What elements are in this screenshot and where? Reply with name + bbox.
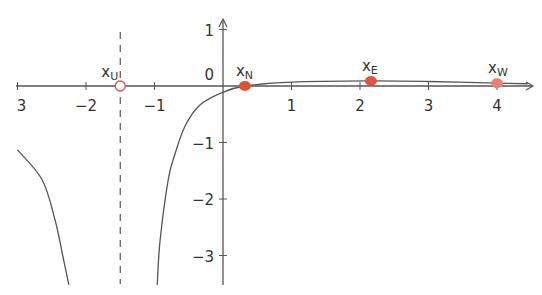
point-label-subscript: U (110, 70, 118, 83)
point-xW-label: xW (488, 59, 508, 79)
point-label-main: x (236, 62, 245, 80)
function-graph: 3−2−112341−1−2−30 xUxNxExW (0, 0, 542, 295)
point-label-subscript: N (245, 69, 253, 82)
x-tick-label: −1 (143, 97, 165, 115)
point-xE-marker (365, 76, 377, 86)
point-xE-label: xE (362, 57, 378, 77)
axes: 3−2−112341−1−2−30 (16, 19, 533, 285)
point-label-main: x (488, 59, 497, 77)
point-xU-label: xU (101, 63, 118, 83)
y-tick-label: −3 (192, 248, 214, 266)
point-label-main: x (101, 63, 110, 81)
point-xN-marker (239, 81, 251, 91)
point-xW-marker (491, 78, 503, 88)
x-tick-label: 3 (424, 97, 434, 115)
point-xN-label: xN (236, 62, 253, 82)
y-tick-label: −2 (192, 191, 214, 209)
origin-label: 0 (204, 66, 214, 84)
point-label-subscript: W (497, 66, 508, 79)
point-label-subscript: E (371, 64, 378, 77)
x-tick-label: 4 (492, 97, 502, 115)
left-branch (18, 150, 69, 285)
x-tick-label: 1 (287, 97, 297, 115)
x-tick-label: 3 (17, 97, 27, 115)
x-tick-label: 2 (355, 97, 365, 115)
x-tick-label: −2 (75, 97, 97, 115)
point-label-main: x (362, 57, 371, 75)
y-tick-label: −1 (192, 135, 214, 153)
y-tick-label: 1 (204, 22, 214, 40)
